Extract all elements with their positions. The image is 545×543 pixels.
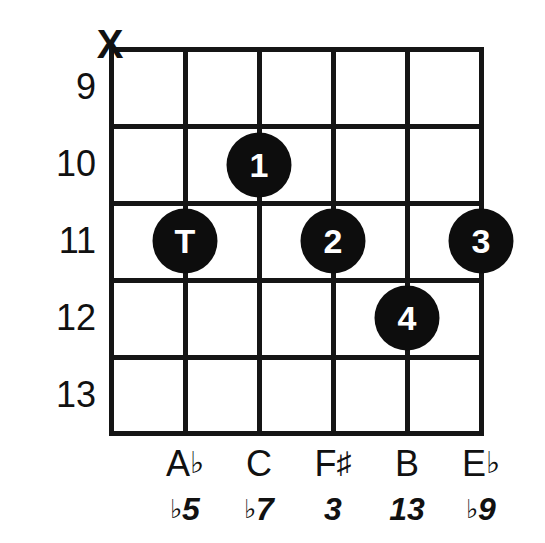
fret-number-9: 9: [76, 69, 96, 105]
interval-accidental: ♭: [466, 494, 478, 524]
fret-line-5: [109, 431, 484, 436]
string-line-1: [109, 47, 114, 436]
finger-dot-label: 3: [472, 223, 491, 257]
note-name-E-acc: E♭: [462, 446, 500, 482]
finger-dot-label: 1: [250, 147, 269, 181]
interval-number: 9: [478, 491, 496, 527]
note-name-F-acc: F♯: [315, 446, 352, 482]
string-line-5: [405, 47, 410, 436]
muted-string-x-icon: X: [97, 24, 124, 64]
note-letter: C: [246, 443, 272, 484]
interval-accidental: ♭: [170, 494, 182, 524]
finger-dot-label: 4: [398, 300, 417, 334]
finger-dot-1[interactable]: 1: [227, 133, 292, 198]
finger-dot-2[interactable]: 2: [301, 209, 366, 274]
interval-number: 3: [324, 491, 342, 527]
note-accidental: ♭: [190, 446, 204, 479]
guitar-chord-diagram: X 910111213 1T234 A♭CF♯BE♭ ♭5♭7313♭9: [0, 0, 545, 543]
note-letter: A: [166, 443, 190, 484]
finger-dot-T[interactable]: T: [153, 209, 218, 274]
string-line-3: [257, 47, 262, 436]
interval-number: 7: [256, 491, 274, 527]
fret-number-12: 12: [56, 300, 96, 336]
finger-dot-label: T: [175, 223, 196, 257]
interval-degree-13: 13: [389, 493, 425, 525]
interval-degree-flat-5: ♭5: [170, 493, 200, 525]
note-accidental: ♭: [486, 446, 500, 479]
fret-line-0: [109, 47, 484, 52]
note-name-A-acc: A♭: [166, 446, 204, 482]
note-letter: F: [315, 443, 337, 484]
fret-number-11: 11: [59, 223, 96, 259]
interval-degree-3: 3: [324, 493, 342, 525]
interval-accidental: ♭: [244, 494, 256, 524]
note-letter: E: [462, 443, 486, 484]
fret-number-10: 10: [56, 146, 96, 182]
fret-line-4: [109, 355, 484, 360]
interval-number: 13: [389, 491, 425, 527]
fret-line-2: [109, 201, 484, 206]
note-name-B: B: [395, 446, 419, 482]
interval-degree-flat-7: ♭7: [244, 493, 274, 525]
finger-dot-label: 2: [324, 223, 343, 257]
note-name-C: C: [246, 446, 272, 482]
fret-number-13: 13: [56, 377, 96, 413]
note-accidental: ♯: [337, 446, 352, 479]
note-letter: B: [395, 443, 419, 484]
finger-dot-4[interactable]: 4: [375, 286, 440, 351]
fret-line-1: [109, 124, 484, 129]
fret-line-3: [109, 278, 484, 283]
finger-dot-3[interactable]: 3: [449, 209, 514, 274]
interval-number: 5: [182, 491, 200, 527]
interval-degree-flat-9: ♭9: [466, 493, 496, 525]
